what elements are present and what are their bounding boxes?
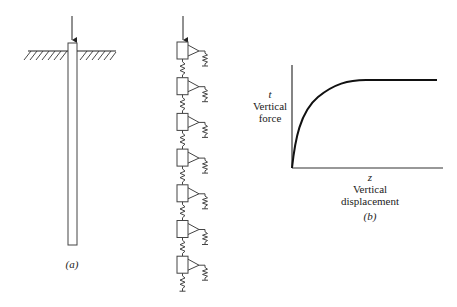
axial-spring-icon xyxy=(180,238,185,257)
soil-spring-icon xyxy=(203,87,208,102)
pile-segment-block xyxy=(177,42,188,59)
axial-spring-icon xyxy=(180,166,185,185)
x-label-line2: displacement xyxy=(320,195,420,207)
pile-segment-block xyxy=(177,221,188,238)
soil-spring-icon xyxy=(203,158,208,173)
soil-spring-icon xyxy=(203,194,208,209)
axial-spring-icon xyxy=(180,95,185,114)
pile-segment-block xyxy=(177,78,188,95)
y-label-line1: Vertical xyxy=(250,100,290,112)
pile-segment-block xyxy=(177,185,188,202)
soil-spring-icon xyxy=(203,51,208,66)
y-label-line2: force xyxy=(250,112,290,124)
axial-spring-icon xyxy=(180,273,185,291)
tz-chart xyxy=(292,65,443,168)
axial-spring-icon xyxy=(180,202,185,221)
pile-segment-block xyxy=(177,113,188,130)
figure-b-label: (b) xyxy=(355,210,385,222)
tz-curve xyxy=(292,80,437,168)
x-label-line1: Vertical xyxy=(330,183,410,195)
axial-spring-icon xyxy=(180,130,185,149)
soil-spring-icon xyxy=(203,122,208,137)
spring-segments xyxy=(177,42,208,291)
soil-spring-icon xyxy=(203,230,208,245)
pile-segment-block xyxy=(177,149,188,166)
soil-spring-icon xyxy=(203,265,208,280)
pile-segment-block xyxy=(177,256,188,273)
figure-a-label: (a) xyxy=(60,258,84,270)
x-symbol: z xyxy=(330,171,410,183)
y-symbol: t xyxy=(250,88,290,100)
axial-spring-icon xyxy=(180,59,185,78)
pile-shaft xyxy=(68,43,77,245)
pile-figure xyxy=(24,16,116,245)
